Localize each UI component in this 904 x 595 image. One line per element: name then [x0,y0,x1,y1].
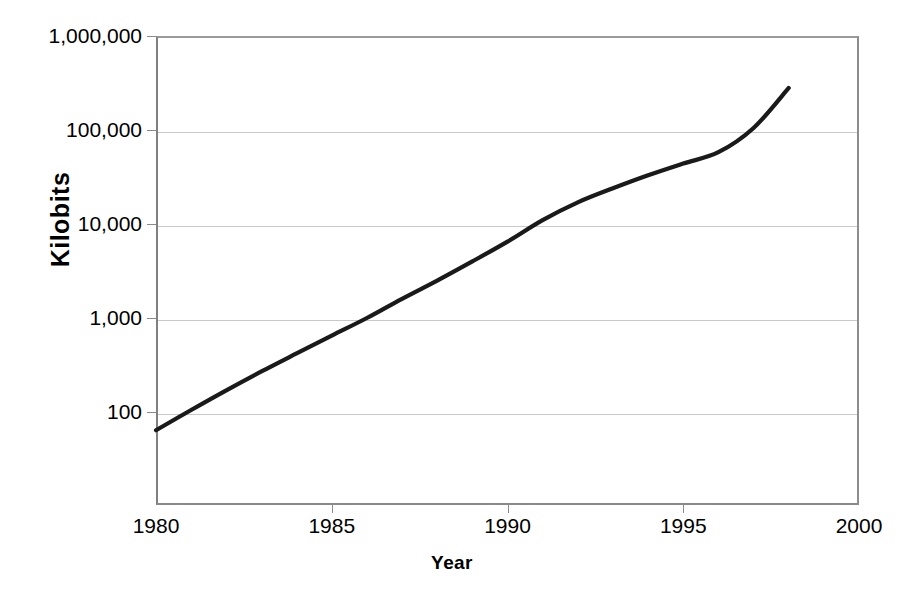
x-tick-mark [332,505,333,513]
y-tick-label: 100,000 [66,119,142,140]
x-tick-label: 1980 [96,515,216,536]
chart-figure: 1,000,000100,00010,0001,000100 Kilobits … [0,0,904,595]
y-tick-mark [147,224,156,225]
gridline-y [158,320,857,321]
gridline-y [158,226,857,227]
y-tick-mark [147,412,156,413]
y-tick-label: 10,000 [78,213,142,234]
x-tick-mark [683,505,684,513]
y-tick-mark [147,36,156,37]
y-tick-mark [147,318,156,319]
x-tick-mark [508,505,509,513]
x-tick-label: 1995 [623,515,743,536]
x-axis-title: Year [0,552,904,574]
y-tick-label: 100 [107,401,142,422]
y-tick-label: 1,000,000 [49,25,142,46]
x-tick-label: 1985 [272,515,392,536]
gridline-y [158,132,857,133]
y-axis-title: Kilobits [46,155,75,285]
x-tick-label: 2000 [799,515,904,536]
x-tick-label: 1990 [448,515,568,536]
gridline-y [158,414,857,415]
plot-area [156,36,859,505]
y-tick-label: 1,000 [89,307,142,328]
y-tick-mark [147,130,156,131]
